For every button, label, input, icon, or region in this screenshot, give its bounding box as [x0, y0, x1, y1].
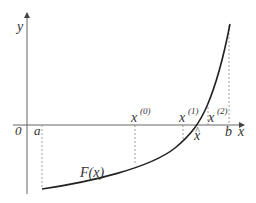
label-x0: x: [130, 110, 138, 125]
label-x1: x: [178, 110, 186, 125]
label-x2: x: [207, 110, 215, 125]
function-curve: [42, 24, 230, 189]
label-x0-sup: (0): [140, 106, 151, 116]
origin-label: 0: [15, 123, 22, 138]
label-b: b: [225, 124, 232, 139]
label-xhat: x: [193, 128, 201, 143]
label-x1-sup: (1): [188, 106, 199, 116]
label-a: a: [34, 123, 41, 138]
label-x2-sup: (2): [217, 106, 228, 116]
x-axis-label: x: [237, 124, 245, 139]
y-axis-label: y: [15, 19, 24, 34]
function-label: F(x): [79, 165, 104, 181]
newton-method-diagram: y 0 a F(x) x (0) x (1) x (2) ^ x b x: [0, 0, 256, 203]
